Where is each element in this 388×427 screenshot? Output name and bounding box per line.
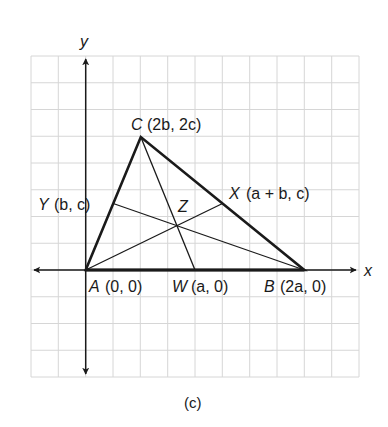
point-a-coords: (0, 0) bbox=[105, 278, 142, 295]
point-b-coords: (2a, 0) bbox=[280, 278, 326, 295]
x-axis-label: x bbox=[363, 262, 373, 279]
y-axis-label: y bbox=[79, 33, 89, 50]
point-c-coords: (2b, 2c) bbox=[147, 116, 201, 133]
point-w-name: W bbox=[172, 278, 189, 295]
label-y: Y (b, c) bbox=[38, 196, 90, 213]
label-a: A (0, 0) bbox=[88, 278, 142, 295]
point-w-coords: (a, 0) bbox=[191, 278, 228, 295]
point-z-name: Z bbox=[177, 198, 189, 215]
label-z: Z bbox=[177, 198, 189, 215]
figure-caption: (c) bbox=[184, 394, 202, 411]
median-a-x bbox=[86, 204, 223, 271]
point-x-coords: (a + b, c) bbox=[246, 185, 310, 202]
coordinate-diagram: y x C (2b, 2c) Y (b, c) X (a + b, c) Z A… bbox=[0, 0, 388, 427]
point-c-name: C bbox=[131, 116, 143, 133]
label-x: X (a + b, c) bbox=[228, 185, 310, 202]
point-b-name: B bbox=[264, 278, 275, 295]
point-y-coords: (b, c) bbox=[54, 196, 90, 213]
point-x-name: X bbox=[228, 185, 241, 202]
point-a-name: A bbox=[88, 278, 100, 295]
median-b-y bbox=[113, 204, 304, 271]
label-w: W (a, 0) bbox=[172, 278, 228, 295]
label-b: B (2a, 0) bbox=[264, 278, 326, 295]
label-c: C (2b, 2c) bbox=[131, 116, 201, 133]
point-y-name: Y bbox=[38, 196, 50, 213]
